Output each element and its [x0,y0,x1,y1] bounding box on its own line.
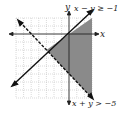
inequality-1-label: x − y ≥ −1 [74,5,118,13]
inequality-2-label: x + y > −5 [72,100,116,108]
inequality-graph [0,0,121,115]
x-axis-label: x [100,30,105,39]
y-axis-label: y [65,3,70,12]
